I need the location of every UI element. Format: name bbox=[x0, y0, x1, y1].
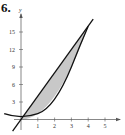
y-tick-label: 9 bbox=[12, 64, 15, 70]
y-tick-label: 12 bbox=[9, 47, 15, 53]
x-tick-label: 4 bbox=[87, 123, 90, 129]
y-axis-label: y bbox=[18, 7, 22, 13]
x-tick-label: 5 bbox=[104, 123, 107, 129]
line-curve bbox=[13, 19, 94, 131]
y-tick-label: 15 bbox=[9, 29, 15, 35]
chart: y 1 2 3 4 5 3 6 9 12 15 bbox=[0, 0, 125, 135]
x-tick-label: 3 bbox=[70, 123, 73, 129]
y-tick-label: 6 bbox=[12, 82, 15, 88]
y-axis-arrow bbox=[19, 13, 22, 18]
x-tick-label: 2 bbox=[53, 123, 56, 129]
x-axis-arrow bbox=[116, 118, 121, 121]
y-tick-label: 3 bbox=[12, 99, 15, 105]
x-tick-label: 1 bbox=[36, 123, 39, 129]
